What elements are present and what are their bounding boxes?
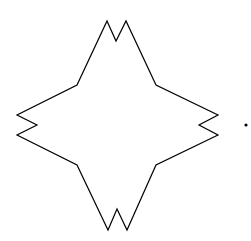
background <box>0 0 251 241</box>
diagram-canvas <box>0 0 251 241</box>
dot-marker <box>244 123 247 126</box>
